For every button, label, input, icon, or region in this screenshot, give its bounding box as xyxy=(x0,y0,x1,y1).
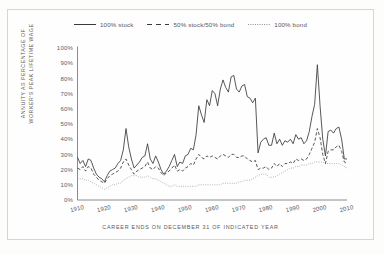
y-tick-label: 10% xyxy=(60,182,73,188)
x-tick-label: 1930 xyxy=(123,204,139,213)
x-tick-label: 1920 xyxy=(96,204,112,213)
y-tick-labels: 0%10%20%30%40%50%60%70%80%90%100% xyxy=(57,45,74,203)
chart-svg: 0%10%20%30%40%50%60%70%80%90%100% 191019… xyxy=(0,0,384,254)
x-tick-label: 1940 xyxy=(150,204,166,213)
y-tick-label: 80% xyxy=(60,76,73,82)
y-tick-label: 0% xyxy=(64,197,74,203)
x-tick-label: 1960 xyxy=(204,204,220,213)
x-tick-label: 2010 xyxy=(339,204,355,213)
x-tick-label: 1980 xyxy=(258,204,274,213)
x-tick-labels: 1910192019301940195019601970198019902000… xyxy=(69,204,354,213)
x-tick-label: 1950 xyxy=(177,204,193,213)
series-line-50-50 xyxy=(78,129,348,184)
chart-figure: 100% stock 50% stock/50% bond 100% bond … xyxy=(0,0,384,254)
y-tick-label: 60% xyxy=(60,106,73,112)
plot-area: 0%10%20%30%40%50%60%70%80%90%100% 191019… xyxy=(0,0,384,254)
y-tick-label: 70% xyxy=(60,91,73,97)
x-tick-label: 1990 xyxy=(285,204,301,213)
x-tick-label: 1910 xyxy=(69,204,85,213)
series-line-100-stock xyxy=(78,65,348,182)
y-tick-label: 30% xyxy=(60,152,73,158)
y-tick-label: 50% xyxy=(60,121,73,127)
x-tick-label: 2000 xyxy=(312,204,328,213)
y-tick-label: 40% xyxy=(60,136,73,142)
y-tick-label: 90% xyxy=(60,60,73,66)
x-tick-label: 1970 xyxy=(231,204,247,213)
y-tick-label: 20% xyxy=(60,167,73,173)
series-line-100-bond xyxy=(78,162,348,189)
y-tick-label: 100% xyxy=(57,45,74,51)
x-axis-title: CAREER ENDS ON DECEMBER 31 OF INDICATED … xyxy=(7,224,374,230)
